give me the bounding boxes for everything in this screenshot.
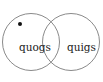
quigs-label: quigs bbox=[67, 41, 96, 53]
venn-diagram: quogs quigs bbox=[0, 0, 103, 82]
quogs-label: quogs bbox=[19, 41, 51, 53]
element-dot bbox=[18, 22, 22, 26]
